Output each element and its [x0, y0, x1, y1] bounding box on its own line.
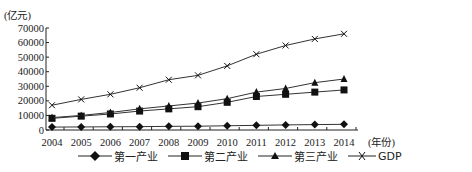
legend-item-gdp: GDP — [348, 150, 402, 163]
y-tick-label: 20000 — [18, 95, 44, 106]
x-tick-label: 2008 — [158, 137, 179, 148]
x-marker — [253, 51, 259, 57]
legend-item-tertiary: 第三产业 — [258, 148, 338, 164]
x-tick-label: 2004 — [42, 137, 64, 148]
legend-label: GDP — [378, 150, 402, 163]
y-axis-unit: (亿元) — [4, 9, 31, 22]
legend-label: 第二产业 — [204, 148, 248, 164]
y-tick-label: 10000 — [18, 110, 44, 121]
triangle-marker — [341, 75, 348, 82]
diamond-marker — [194, 122, 202, 130]
chart-container: 010000200003000040000500006000070000(亿元)… — [0, 0, 472, 172]
series-line — [52, 79, 344, 118]
diamond-marker — [223, 122, 231, 130]
line-chart: 010000200003000040000500006000070000(亿元)… — [0, 0, 472, 172]
legend-label: 第三产业 — [294, 148, 338, 164]
x-marker — [224, 63, 230, 69]
triangle-icon — [258, 151, 292, 161]
diamond-marker — [282, 121, 290, 129]
legend-item-secondary: 第二产业 — [168, 148, 248, 164]
chart-legend: 第一产业 第二产业 第三产业 GDP — [78, 148, 402, 164]
x-tick-label: 2006 — [100, 137, 121, 148]
x-tick-label: 2014 — [334, 137, 356, 148]
y-tick-label: 0 — [39, 125, 44, 136]
x-tick-label: 2007 — [129, 137, 150, 148]
x-tick-label: 2013 — [304, 137, 325, 148]
y-tick-label: 50000 — [18, 52, 44, 63]
x-tick-label: 2012 — [275, 137, 296, 148]
square-marker — [282, 91, 289, 98]
y-tick-label: 70000 — [18, 23, 44, 34]
diamond-marker — [165, 122, 173, 130]
legend-label: 第一产业 — [114, 148, 158, 164]
diamond-marker — [311, 121, 319, 129]
diamond-marker — [252, 121, 260, 129]
x-tick-label: 2011 — [246, 137, 267, 148]
legend-item-primary: 第一产业 — [78, 148, 158, 164]
x-tick-label: 2005 — [71, 137, 92, 148]
square-icon — [168, 151, 202, 161]
y-tick-label: 60000 — [18, 37, 44, 48]
diamond-marker — [136, 123, 144, 131]
x-tick-label: 2010 — [217, 137, 238, 148]
x-tick-label: 2009 — [188, 137, 209, 148]
y-tick-label: 40000 — [18, 66, 44, 77]
diamond-marker — [340, 120, 348, 128]
diamond-icon — [78, 151, 112, 161]
x-icon — [348, 151, 376, 161]
square-marker — [341, 86, 348, 93]
y-tick-label: 30000 — [18, 81, 44, 92]
series-line — [52, 34, 344, 105]
square-marker — [311, 89, 318, 96]
